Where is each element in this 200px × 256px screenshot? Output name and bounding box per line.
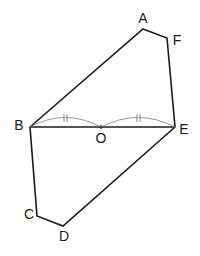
label-d: D bbox=[59, 228, 69, 244]
arc-bo bbox=[30, 118, 101, 128]
double-tick-bo bbox=[64, 114, 67, 122]
label-c: C bbox=[24, 206, 34, 222]
double-tick-oe bbox=[137, 114, 140, 122]
label-e: E bbox=[179, 121, 188, 137]
label-o: O bbox=[96, 130, 107, 146]
label-b: B bbox=[14, 117, 23, 133]
label-a: A bbox=[138, 10, 148, 26]
arc-oe bbox=[101, 118, 175, 128]
label-f: F bbox=[173, 32, 182, 48]
geometry-diagram: A F B O E C D bbox=[0, 0, 200, 256]
